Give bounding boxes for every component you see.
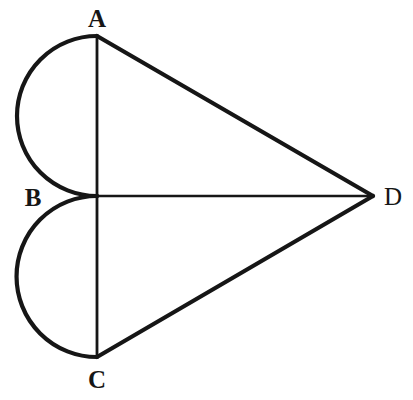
vertex-label-B: B: [25, 185, 42, 210]
geometry-figure-canvas: A B C D: [0, 0, 413, 400]
semicircle-BC-arc: [17, 196, 97, 357]
segment-CD-line: [97, 196, 373, 357]
segment-AD-line: [97, 36, 373, 196]
vertex-label-C: C: [88, 367, 106, 392]
semicircle-AB-arc: [17, 36, 97, 196]
vertex-label-D: D: [384, 184, 402, 209]
vertex-label-A: A: [88, 6, 106, 31]
geometry-diagram-svg: [0, 0, 413, 400]
